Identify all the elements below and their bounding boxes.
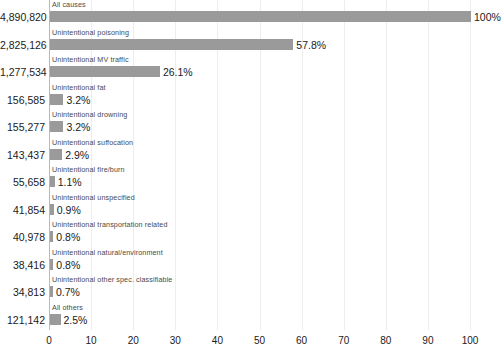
bar-value-label: 0.8% bbox=[56, 259, 80, 271]
bar-row[interactable]: 155,277Unintentional drowning3.2% bbox=[0, 110, 500, 138]
bar[interactable] bbox=[50, 39, 293, 50]
bar-value-label: 1.1% bbox=[58, 176, 82, 188]
bar-row[interactable]: 121,142All others2.5% bbox=[0, 303, 500, 331]
row-count-label: 2,825,126 bbox=[0, 39, 45, 51]
row-count-label: 143,437 bbox=[0, 149, 45, 161]
bar-row[interactable]: 38,416Unintentional natural/environment0… bbox=[0, 248, 500, 276]
bar-row[interactable]: 156,585Unintentional fat3.2% bbox=[0, 83, 500, 111]
bar-value-label: 3.2% bbox=[66, 94, 90, 106]
bar-value-label: 2.5% bbox=[64, 314, 88, 326]
bar[interactable] bbox=[50, 11, 471, 22]
bar-row[interactable]: 143,437Unintentional suffocation2.9% bbox=[0, 138, 500, 166]
bar-value-label: 100% bbox=[474, 11, 501, 23]
bar[interactable] bbox=[50, 176, 55, 187]
row-count-label: 121,142 bbox=[0, 314, 45, 326]
row-count-label: 38,416 bbox=[0, 259, 45, 271]
row-category-label: Unintentional other spec. classifiable bbox=[52, 275, 172, 284]
row-count-label: 1,277,534 bbox=[0, 66, 45, 78]
bar-row[interactable]: 40,978Unintentional transportation relat… bbox=[0, 220, 500, 248]
bar-row[interactable]: 34,813Unintentional other spec. classifi… bbox=[0, 275, 500, 303]
bar[interactable] bbox=[50, 286, 53, 297]
bar-value-label: 57.8% bbox=[296, 39, 326, 51]
row-category-label: Unintentional suffocation bbox=[52, 138, 133, 147]
bar[interactable] bbox=[50, 314, 61, 325]
row-count-label: 34,813 bbox=[0, 286, 45, 298]
bar-rows: 4,890,820All causes100%2,825,126Unintent… bbox=[0, 0, 500, 330]
row-category-label: Unintentional unspecified bbox=[52, 193, 135, 202]
row-count-label: 156,585 bbox=[0, 94, 45, 106]
bar-value-label: 0.7% bbox=[56, 286, 80, 298]
x-axis: 0102030405060708090100 bbox=[0, 330, 500, 357]
bar-row[interactable]: 2,825,126Unintentional poisoning57.8% bbox=[0, 28, 500, 56]
row-count-label: 40,978 bbox=[0, 231, 45, 243]
bar-value-label: 3.2% bbox=[66, 121, 90, 133]
row-category-label: Unintentional natural/environment bbox=[52, 248, 163, 257]
bar[interactable] bbox=[50, 121, 63, 132]
bar[interactable] bbox=[50, 94, 63, 105]
row-category-label: Unintentional drowning bbox=[52, 110, 127, 119]
bar-row[interactable]: 4,890,820All causes100% bbox=[0, 0, 500, 28]
bar[interactable] bbox=[50, 149, 62, 160]
row-count-label: 4,890,820 bbox=[0, 11, 45, 23]
x-axis-tick-label: 30 bbox=[170, 335, 181, 347]
row-category-label: All others bbox=[52, 303, 83, 312]
bar-value-label: 2.9% bbox=[65, 149, 89, 161]
x-axis-tick-label: 90 bbox=[422, 335, 433, 347]
x-axis-tick-label: 40 bbox=[212, 335, 223, 347]
x-axis-tick-label: 10 bbox=[86, 335, 97, 347]
bar[interactable] bbox=[50, 66, 160, 77]
x-axis-tick-label: 80 bbox=[380, 335, 391, 347]
bar-value-label: 26.1% bbox=[163, 66, 193, 78]
bar-value-label: 0.8% bbox=[56, 231, 80, 243]
x-axis-tick-label: 70 bbox=[338, 335, 349, 347]
bar-row[interactable]: 41,854Unintentional unspecified0.9% bbox=[0, 193, 500, 221]
bar-row[interactable]: 55,658Unintentional fire/burn1.1% bbox=[0, 165, 500, 193]
bar-row[interactable]: 1,277,534Unintentional MV traffic26.1% bbox=[0, 55, 500, 83]
x-axis-tick-label: 0 bbox=[46, 335, 52, 347]
row-category-label: Unintentional fat bbox=[52, 83, 106, 92]
row-count-label: 55,658 bbox=[0, 176, 45, 188]
row-count-label: 155,277 bbox=[0, 121, 45, 133]
bar[interactable] bbox=[50, 231, 53, 242]
bar[interactable] bbox=[50, 204, 54, 215]
row-category-label: Unintentional MV traffic bbox=[52, 55, 129, 64]
row-category-label: Unintentional transportation related bbox=[52, 220, 167, 229]
x-axis-tick-label: 20 bbox=[128, 335, 139, 347]
x-axis-tick-label: 60 bbox=[296, 335, 307, 347]
row-count-label: 41,854 bbox=[0, 204, 45, 216]
bar[interactable] bbox=[50, 259, 53, 270]
x-axis-tick-label: 50 bbox=[254, 335, 265, 347]
row-category-label: All causes bbox=[52, 0, 86, 9]
row-category-label: Unintentional poisoning bbox=[52, 28, 129, 37]
x-axis-tick-label: 100 bbox=[462, 335, 479, 347]
bar-value-label: 0.9% bbox=[57, 204, 81, 216]
row-category-label: Unintentional fire/burn bbox=[52, 165, 125, 174]
